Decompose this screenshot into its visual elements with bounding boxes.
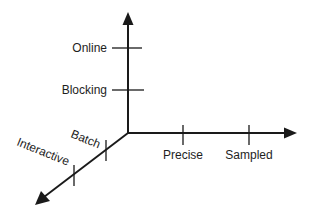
label-interactive: Interactive <box>15 135 72 169</box>
label-precise: Precise <box>163 148 203 162</box>
design-space-diagram: Online Blocking Precise Sampled Batch In… <box>0 0 312 220</box>
label-batch: Batch <box>69 127 103 151</box>
diagonal-axis: Batch Interactive <box>15 127 128 205</box>
label-blocking: Blocking <box>62 83 107 97</box>
horizontal-axis-arrowhead <box>284 128 297 139</box>
vertical-axis: Online Blocking <box>62 12 144 134</box>
horizontal-axis: Precise Sampled <box>127 125 297 162</box>
label-sampled: Sampled <box>225 148 272 162</box>
label-online: Online <box>72 41 107 55</box>
vertical-axis-arrowhead <box>123 12 134 25</box>
